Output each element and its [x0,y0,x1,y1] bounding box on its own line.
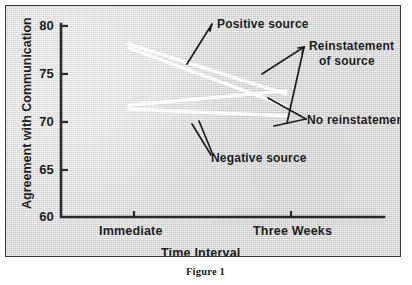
x-axis-title: Time Interval [161,246,241,257]
leader-reinstatement-a [262,47,304,74]
chart-series-lines [129,44,286,116]
leader-no-reinstatement-b [274,119,306,126]
annotation-positive-source: Positive source [217,17,309,31]
figure-container: 80 75 70 65 60 Immediate Three Weeks Agr… [0,0,412,285]
series-line-positive-reinstatement [129,44,286,94]
annotation-negative-source: Negative source [211,151,307,165]
figure-caption: Figure 1 [186,266,225,277]
annotation-leader-lines [187,24,306,155]
xtick-label-immediate: Immediate [99,224,163,238]
annotation-no-reinstatement: No reinstatement [307,113,401,127]
annotation-reinstatement-of-source-line1: Reinstatement [309,39,394,53]
annotation-reinstatement-of-source-line2: of source [319,54,375,68]
series-line-negative-reinstatement [129,109,286,116]
y-axis-title: Agreement with Communication [20,17,34,209]
xtick-label-three-weeks: Three Weeks [253,224,332,238]
leader-reinstatement-b [287,47,304,123]
figure-plate: 80 75 70 65 60 Immediate Three Weeks Agr… [5,5,401,257]
ytick-label-60: 60 [28,209,54,224]
